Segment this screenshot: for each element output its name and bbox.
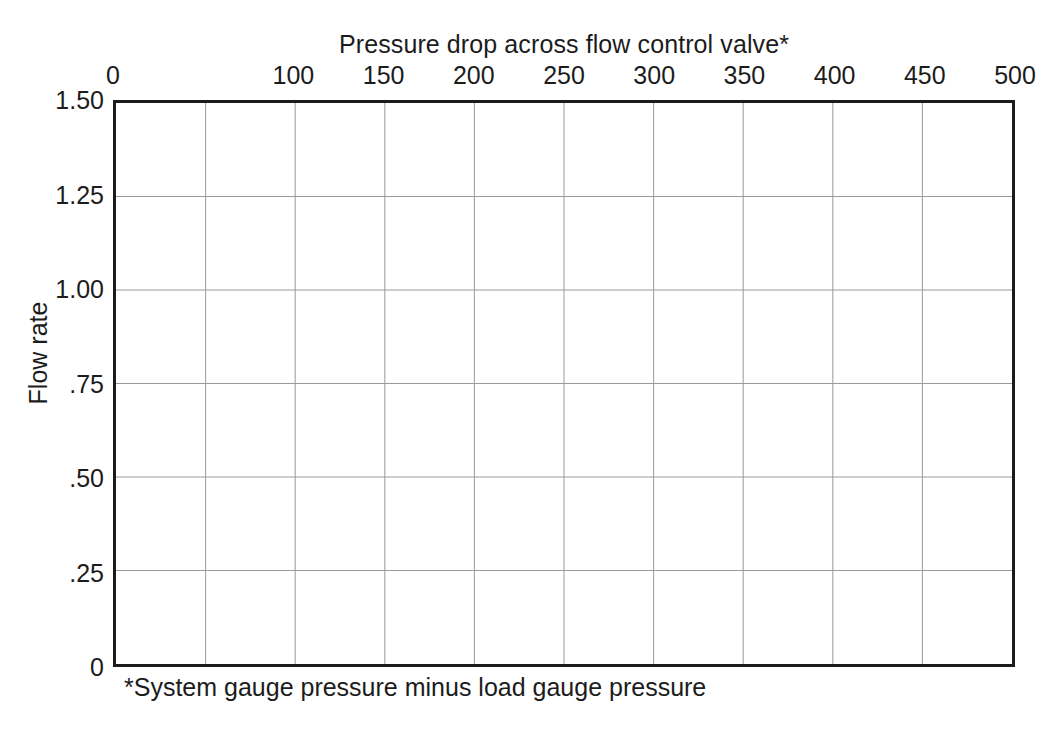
gridlines <box>116 103 1012 664</box>
y-tick-label: 1.50 <box>20 87 104 113</box>
chart-footnote: *System gauge pressure minus load gauge … <box>124 672 706 702</box>
y-axis-label: Flow rate <box>25 293 51 413</box>
plot-area <box>113 100 1015 667</box>
x-tick-label: 150 <box>363 62 405 88</box>
y-tick-label: 1.25 <box>20 182 104 208</box>
x-tick-label: 200 <box>453 62 495 88</box>
y-tick-label: 0 <box>20 654 104 680</box>
chart-figure: Pressure drop across flow control valve*… <box>0 0 1058 740</box>
x-tick-label: 250 <box>543 62 585 88</box>
x-tick-label: 400 <box>814 62 856 88</box>
y-tick-label: .50 <box>20 465 104 491</box>
x-tick-label: 450 <box>904 62 946 88</box>
x-tick-label: 0 <box>106 62 120 88</box>
x-tick-label: 100 <box>273 62 315 88</box>
y-tick-label: .25 <box>20 560 104 586</box>
x-tick-label: 500 <box>994 62 1036 88</box>
chart-title: Pressure drop across flow control valve* <box>113 30 1015 58</box>
x-tick-label: 300 <box>633 62 675 88</box>
x-tick-label: 350 <box>724 62 766 88</box>
